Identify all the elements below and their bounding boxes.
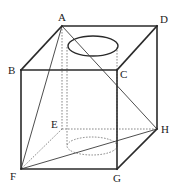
label-A: A <box>58 11 66 23</box>
label-E: E <box>51 118 58 130</box>
cylinder <box>67 36 118 155</box>
label-C: C <box>120 68 127 80</box>
label-H: H <box>161 123 169 135</box>
cube-cylinder-diagram: A B C D E F G H <box>0 0 175 185</box>
vertex-labels: A B C D E F G H <box>8 11 169 184</box>
label-G: G <box>113 172 121 184</box>
cylinder-bottom-ellipse <box>67 137 117 155</box>
label-D: D <box>160 13 168 25</box>
label-F: F <box>10 170 16 182</box>
edge-DC <box>117 26 157 70</box>
label-B: B <box>8 64 15 76</box>
cylinder-top-ellipse <box>68 36 118 56</box>
